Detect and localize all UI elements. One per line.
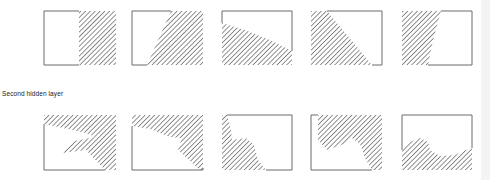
panel-1 [44,11,116,65]
panel-8 [222,115,292,170]
panel-10 [402,115,472,170]
panel-5 [402,11,472,65]
panel-6 [44,115,116,170]
panel-7 [132,115,203,170]
panel-2 [132,11,203,65]
neuron-activation-grid [0,0,490,180]
panel-3 [222,11,292,65]
panel-4 [311,11,382,65]
panel-9 [311,115,382,170]
